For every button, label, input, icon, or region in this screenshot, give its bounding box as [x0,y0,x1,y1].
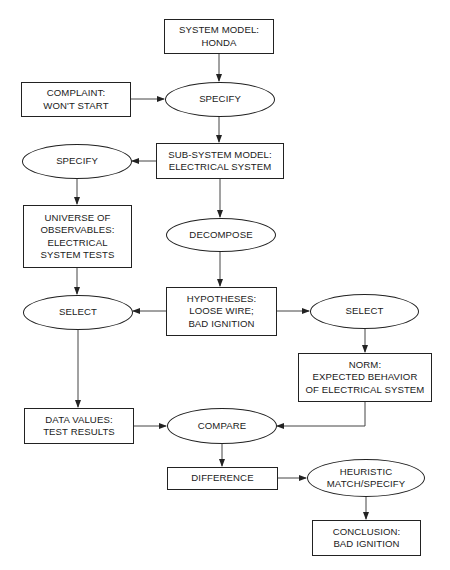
node-label: DATA VALUES: [45,414,112,427]
norm-box: NORM: EXPECTED BEHAVIOR OF ELECTRICAL SY… [298,353,432,402]
specify-ellipse-left: SPECIFY [22,144,132,179]
universe-of-observables-box: UNIVERSE OF OBSERVABLES: ELECTRICAL SYST… [23,205,132,268]
node-label: NORM: [349,359,381,372]
node-label: WON'T START [43,100,108,113]
data-values-box: DATA VALUES: TEST RESULTS [24,408,134,444]
node-label: SYSTEM MODEL: [179,24,259,37]
system-model-box: SYSTEM MODEL: HONDA [164,19,274,54]
arrow-norm-to-compare [277,401,365,426]
node-label: MATCH/SPECIFY [327,478,405,491]
node-label: HONDA [201,37,236,50]
node-label: SPECIFY [56,155,98,168]
node-label: SUB-SYSTEM MODEL: [168,149,272,162]
select-ellipse-right: SELECT [310,294,419,329]
difference-box: DIFFERENCE [167,467,278,490]
node-label: HEURISTIC [340,466,393,479]
specify-ellipse-top: SPECIFY [165,82,275,117]
complaint-box: COMPLAINT: WON'T START [21,82,131,117]
heuristic-match-ellipse: HEURISTIC MATCH/SPECIFY [307,459,425,497]
node-label: OF ELECTRICAL SYSTEM [306,384,425,397]
node-label: TEST RESULTS [43,426,115,439]
compare-ellipse: COMPARE [167,408,277,444]
conclusion-box: CONCLUSION: BAD IGNITION [312,520,421,556]
node-label: UNIVERSE OF [44,212,110,225]
node-label: ELECTRICAL [47,237,107,250]
diagnosis-flowchart: SYSTEM MODEL: HONDA COMPLAINT: WON'T STA… [0,0,450,570]
node-label: OBSERVABLES: [41,224,115,237]
node-label: DIFFERENCE [191,472,253,485]
node-label: CONCLUSION: [333,526,401,539]
node-label: BAD IGNITION [188,318,254,331]
node-label: SELECT [59,306,97,319]
node-label: SYSTEM TESTS [40,249,114,262]
node-label: ELECTRICAL SYSTEM [169,161,272,174]
node-label: COMPLAINT: [47,87,106,100]
node-label: LOOSE WIRE; [189,305,254,318]
subsystem-model-box: SUB-SYSTEM MODEL: ELECTRICAL SYSTEM [156,143,284,179]
node-label: COMPARE [198,420,247,433]
node-label: DECOMPOSE [189,229,252,242]
node-label: SELECT [346,305,384,318]
select-ellipse-left: SELECT [23,295,133,330]
node-label: EXPECTED BEHAVIOR [313,371,418,384]
decompose-ellipse: DECOMPOSE [166,218,276,252]
node-label: HYPOTHESES: [187,293,256,306]
node-label: BAD IGNITION [333,538,399,551]
hypotheses-box: HYPOTHESES: LOOSE WIRE; BAD IGNITION [166,287,277,336]
node-label: SPECIFY [199,93,241,106]
